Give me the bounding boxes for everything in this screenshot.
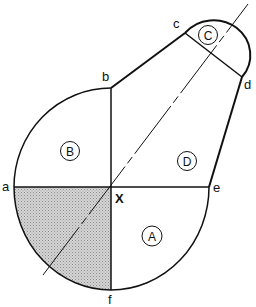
arc-c-d xyxy=(185,20,250,77)
point-b-label: b xyxy=(102,69,109,84)
dashed-axis xyxy=(43,4,248,275)
region-b-marker: B xyxy=(61,142,80,161)
region-d-marker: D xyxy=(178,152,197,171)
region-b-label: B xyxy=(66,145,74,159)
line-b-c xyxy=(111,33,185,88)
line-e-d xyxy=(209,77,242,187)
region-a-label: A xyxy=(148,230,156,244)
arc-f-e xyxy=(111,187,209,290)
region-d-label: D xyxy=(183,155,192,169)
region-c-marker: C xyxy=(199,26,218,45)
arc-a-b xyxy=(14,88,111,187)
point-a-label: a xyxy=(2,179,10,194)
region-a-marker: A xyxy=(142,226,162,246)
point-f-label: f xyxy=(108,292,112,307)
point-e-label: e xyxy=(213,180,220,195)
point-x-label: X xyxy=(115,191,124,206)
line-c-d xyxy=(185,33,242,77)
geometry-diagram: B D A C a b c d e f X xyxy=(0,0,256,307)
region-c-label: C xyxy=(204,29,213,43)
point-d-label: d xyxy=(244,77,251,92)
point-c-label: c xyxy=(173,16,180,31)
shaded-quadrant xyxy=(14,187,111,290)
